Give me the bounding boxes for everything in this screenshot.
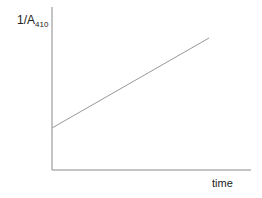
data-line <box>52 38 209 128</box>
x-axis-label: time <box>212 177 233 189</box>
chart-plot <box>0 0 262 198</box>
